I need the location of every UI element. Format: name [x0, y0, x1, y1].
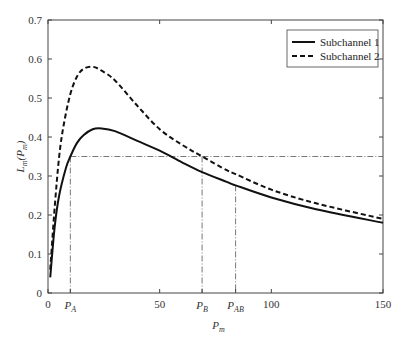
y-tick-label: 0	[37, 287, 43, 299]
y-tick-label: 0.4	[28, 131, 42, 143]
y-axis-label: Lm(Pm)	[14, 140, 29, 173]
svg-text:Lm(Pm): Lm(Pm)	[14, 140, 29, 173]
y-tick-label: 0.3	[28, 170, 42, 182]
annotation-label: PB	[195, 299, 208, 314]
y-tick-label: 0.7	[28, 14, 42, 26]
line-chart: 00.10.20.30.40.50.60.7050100150PAPBPABSu…	[0, 0, 402, 337]
x-tick-label: 50	[154, 298, 166, 310]
y-tick-label: 0.2	[28, 209, 42, 221]
series-subchannel-1	[50, 128, 383, 277]
x-tick-label: 100	[263, 298, 280, 310]
legend-label: Subchannel 2	[320, 50, 380, 62]
y-tick-label: 0.5	[28, 92, 42, 104]
annotation-label: PA	[64, 299, 77, 314]
y-tick-label: 0.1	[28, 248, 42, 260]
y-tick-label: 0.6	[28, 53, 42, 65]
series-subchannel-2	[50, 67, 383, 270]
legend-label: Subchannel 1	[320, 36, 380, 48]
annotation-label: PAB	[226, 299, 244, 314]
x-axis-label: Pm	[211, 319, 225, 334]
x-tick-label: 0	[45, 298, 51, 310]
x-tick-label: 150	[375, 298, 392, 310]
